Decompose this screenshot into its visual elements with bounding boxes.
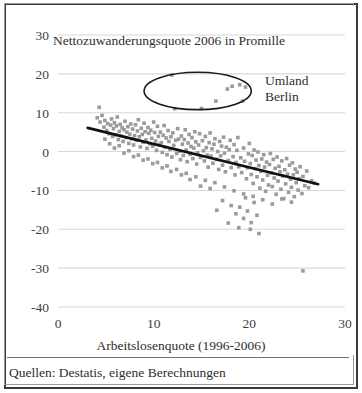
x-tick-label: 10 (147, 316, 161, 331)
x-tick-label: 0 (55, 316, 62, 331)
source-separator (7, 357, 349, 358)
y-tick-label: -40 (31, 300, 49, 315)
trendline (88, 128, 319, 184)
y-tick-label: 0 (42, 145, 49, 160)
x-tick-label: 20 (243, 316, 257, 331)
y-axis-tick-labels: 3020100-10-20-30-40 (31, 28, 49, 315)
y-tick-label: -30 (31, 261, 49, 276)
y-tick-label: 20 (36, 67, 50, 82)
chart-title: Nettozuwanderungsquote 2006 in Promille (53, 33, 285, 48)
annotation-ellipse (144, 72, 251, 109)
annotation-label-line1: Umland (265, 73, 309, 88)
x-axis-label: Arbeitslosenquote (1996-2006) (96, 338, 265, 353)
chart-panel: 3020100-10-20-30-40 0102030 Nettozuwande… (7, 6, 355, 355)
y-tick-label: -10 (31, 183, 49, 198)
x-tick-label: 30 (338, 316, 352, 331)
y-tick-label: -20 (31, 222, 49, 237)
source-note: Quellen: Destatis, eigene Berechnungen (9, 363, 349, 385)
y-tick-label: 30 (36, 28, 50, 43)
scatter-plot: 3020100-10-20-30-40 0102030 Nettozuwande… (7, 6, 355, 355)
figure-container: 3020100-10-20-30-40 0102030 Nettozuwande… (0, 0, 362, 393)
x-axis-tick-labels: 0102030 (55, 316, 352, 331)
y-tick-label: 10 (36, 106, 50, 121)
annotation-label-line2: Berlin (265, 89, 299, 104)
